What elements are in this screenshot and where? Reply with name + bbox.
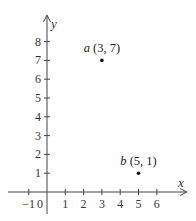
x-tick-label: 3 — [99, 197, 105, 211]
point-marker — [100, 59, 104, 63]
x-tick-label: 6 — [154, 197, 160, 211]
x-tick-label: −1 — [22, 197, 35, 211]
y-tick-label: 5 — [35, 91, 41, 105]
y-tick-label: 6 — [35, 72, 41, 86]
y-tick-label: 3 — [35, 129, 41, 143]
x-tick-label: 2 — [81, 197, 87, 211]
coordinate-plane: xy −1012345612345678 a (3, 7)b (5, 1) — [0, 0, 196, 221]
point-marker — [137, 171, 141, 175]
x-tick-label: 4 — [117, 197, 123, 211]
point-b: b (5, 1) — [120, 154, 156, 175]
point-label: b (5, 1) — [120, 154, 156, 168]
x-axis-label: x — [177, 175, 184, 190]
data-points: a (3, 7)b (5, 1) — [84, 41, 157, 175]
y-tick-label: 8 — [35, 35, 41, 49]
x-tick-label: 1 — [62, 197, 68, 211]
y-tick-label: 4 — [35, 110, 41, 124]
y-axis-label: y — [49, 16, 57, 31]
point-a: a (3, 7) — [84, 41, 120, 62]
y-tick-label: 2 — [35, 147, 41, 161]
x-tick-label: 5 — [136, 197, 142, 211]
x-tick-label: 0 — [37, 197, 43, 211]
point-label: a (3, 7) — [84, 41, 120, 55]
y-tick-label: 7 — [35, 53, 41, 67]
ticks: −1012345612345678 — [22, 35, 159, 211]
y-tick-label: 1 — [35, 166, 41, 180]
